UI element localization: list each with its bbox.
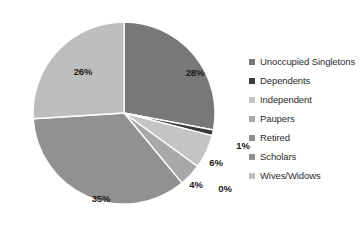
legend-item[interactable]: Wives/Widows — [249, 166, 364, 185]
legend-item-label: Dependents — [260, 76, 310, 86]
legend-swatch-icon — [249, 154, 255, 160]
legend-swatch-icon — [249, 97, 255, 103]
pie-plot-area: 28%1%6%4%0%35%26% — [20, 8, 235, 218]
legend-swatch-icon — [249, 78, 255, 84]
legend-item[interactable]: Scholars — [249, 147, 364, 166]
legend-swatch-icon — [249, 135, 255, 141]
legend-swatch-icon — [249, 116, 255, 122]
pie-data-label: 1% — [236, 141, 249, 151]
legend-item[interactable]: Unoccupied Singletons — [249, 52, 364, 71]
legend-item-label: Scholars — [260, 152, 296, 162]
pie-slice — [124, 22, 215, 130]
chart-legend: Unoccupied SingletonsDependentsIndepende… — [249, 52, 364, 185]
pie-svg — [20, 8, 235, 218]
legend-item-label: Independent — [260, 95, 312, 105]
legend-item[interactable]: Dependents — [249, 71, 364, 90]
legend-item-label: Wives/Widows — [260, 171, 321, 181]
pie-chart-figure: 28%1%6%4%0%35%26% Unoccupied SingletonsD… — [0, 0, 364, 225]
legend-item-label: Paupers — [260, 114, 295, 124]
legend-item-label: Retired — [260, 133, 290, 143]
legend-item-label: Unoccupied Singletons — [260, 57, 355, 67]
legend-swatch-icon — [249, 59, 255, 65]
pie-slice — [33, 22, 124, 119]
legend-item[interactable]: Paupers — [249, 109, 364, 128]
legend-item[interactable]: Retired — [249, 128, 364, 147]
legend-swatch-icon — [249, 173, 255, 179]
legend-item[interactable]: Independent — [249, 90, 364, 109]
pie-slice-group — [33, 22, 215, 204]
